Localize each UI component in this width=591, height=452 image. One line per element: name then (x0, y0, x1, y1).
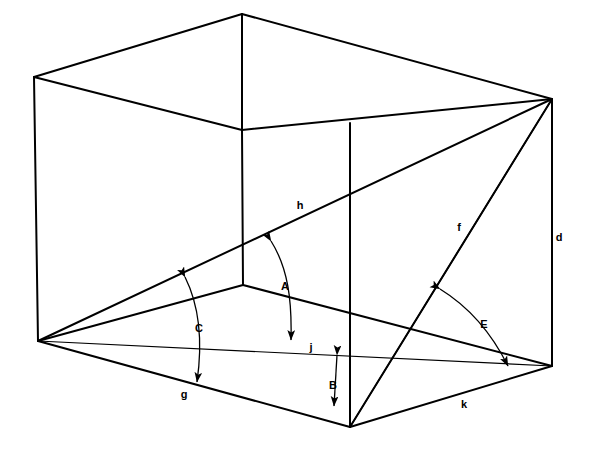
diagonal-f (350, 99, 552, 427)
edge-inner-vertical-post (242, 130, 243, 285)
edge-label-j: j (308, 341, 312, 353)
angle-label-E: E (480, 318, 487, 330)
edge-label-d: d (556, 231, 563, 243)
angle-arrow-E (440, 289, 508, 366)
angle-marker-group (185, 241, 508, 406)
edge-label-k: k (461, 398, 468, 410)
edge-label-g: g (181, 388, 188, 400)
angle-label-C: C (195, 322, 203, 334)
label-group: hfdjgkABCE (181, 199, 563, 410)
edge-ceiling-right-fold (242, 99, 552, 130)
edge-top-left-ridge (34, 14, 242, 77)
angle-label-A: A (281, 280, 289, 292)
edge-floor-front-right-k (350, 366, 552, 427)
edge-label-h: h (297, 199, 304, 211)
edge-ceiling-left-fold (34, 77, 242, 130)
edge-label-f: f (457, 221, 461, 233)
angle-label-B: B (329, 379, 337, 391)
edge-top-right-ridge (242, 14, 552, 99)
diagonal-h (38, 99, 552, 341)
diagonal-line-group (38, 99, 552, 427)
perspective-box-figure: hfdjgkABCE (0, 0, 591, 452)
diagram-canvas: hfdjgkABCE (0, 0, 591, 452)
edge-left-wall-vertical (34, 77, 38, 341)
